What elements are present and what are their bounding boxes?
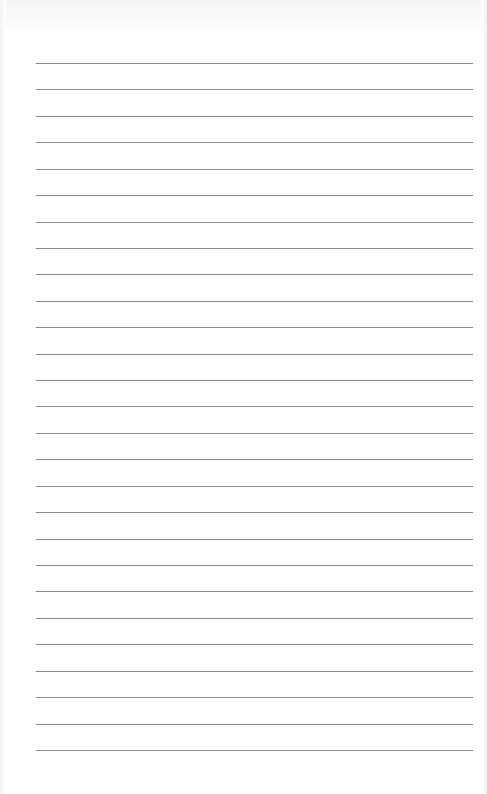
ruled-line <box>36 274 473 275</box>
ruled-line <box>36 222 473 223</box>
ruled-line <box>36 142 473 143</box>
ruled-line <box>36 248 473 249</box>
ruled-line <box>36 459 473 460</box>
ruled-line <box>36 406 473 407</box>
ruled-line <box>36 724 473 725</box>
ruled-line <box>36 618 473 619</box>
ruled-line <box>36 433 473 434</box>
ruled-line <box>36 671 473 672</box>
ruled-line <box>36 380 473 381</box>
ruled-line <box>36 195 473 196</box>
ruled-line <box>36 539 473 540</box>
ruled-line <box>36 565 473 566</box>
ruled-line <box>36 301 473 302</box>
ruled-line <box>36 512 473 513</box>
page-left-edge <box>0 0 6 794</box>
ruled-line <box>36 327 473 328</box>
ruled-line <box>36 750 473 751</box>
ruled-line <box>36 486 473 487</box>
ruled-line <box>36 697 473 698</box>
ruled-line <box>36 644 473 645</box>
page-right-edge <box>481 0 487 794</box>
ruled-line <box>36 89 473 90</box>
ruled-line <box>36 354 473 355</box>
page-top-shadow <box>0 0 487 32</box>
ruled-line <box>36 169 473 170</box>
ruled-line <box>36 116 473 117</box>
ruled-line <box>36 591 473 592</box>
ruled-line <box>36 63 473 64</box>
